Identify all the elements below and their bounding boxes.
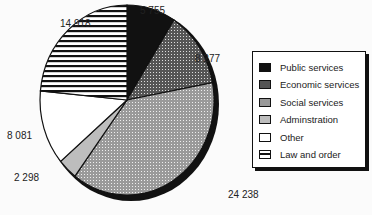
legend-swatch xyxy=(259,80,271,89)
legend-label: Law and order xyxy=(280,149,341,160)
legend-label: Economic services xyxy=(280,79,359,90)
legend-item: Social services xyxy=(259,95,343,109)
legend-swatch xyxy=(259,98,271,107)
legend-swatch xyxy=(259,150,271,159)
legend-label: Public services xyxy=(280,62,343,73)
legend-item: Adminstration xyxy=(259,113,338,127)
legend-swatch xyxy=(259,115,271,124)
legend-swatch xyxy=(259,63,271,72)
legend-label: Social services xyxy=(280,97,343,108)
legend-item: Public services xyxy=(259,60,343,74)
legend-item: Other xyxy=(259,130,304,144)
legend-swatch xyxy=(259,133,271,142)
legend-item: Law and order xyxy=(259,148,341,162)
legend: Public servicesEconomic servicesSocial s… xyxy=(252,51,366,168)
slice-value-label: 8 081 xyxy=(7,130,32,141)
slice-value-label: 14 918 xyxy=(60,18,91,29)
slice-value-label: 2 298 xyxy=(14,172,39,183)
legend-label: Adminstration xyxy=(280,114,338,125)
legend-item: Economic services xyxy=(259,78,359,92)
slice-value-label: 8 277 xyxy=(195,53,220,64)
slice-value-label: 24 238 xyxy=(228,189,259,200)
slice-value-label: 5 755 xyxy=(140,5,165,16)
legend-label: Other xyxy=(280,132,304,143)
